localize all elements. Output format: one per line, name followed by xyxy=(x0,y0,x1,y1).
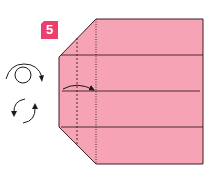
origami-diagram xyxy=(0,0,209,170)
paper-shape xyxy=(59,19,203,164)
rotate-icon xyxy=(11,99,38,123)
turn-over-icon xyxy=(6,64,44,83)
